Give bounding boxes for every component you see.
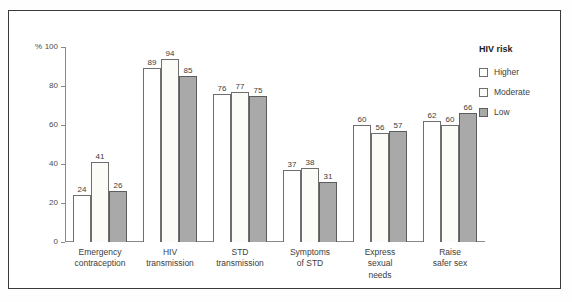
category-label: STD transmission (205, 247, 275, 281)
bar-slot: 66 (459, 47, 477, 242)
bar-value-label: 60 (358, 116, 367, 124)
bar-slot: 38 (301, 47, 319, 242)
bar[interactable]: 66 (459, 113, 477, 242)
bar-value-label: 60 (446, 116, 455, 124)
bar[interactable]: 31 (319, 182, 337, 242)
y-axis-tick-label: 0 (54, 238, 58, 246)
bar[interactable]: 38 (301, 168, 319, 242)
legend-title: HIV risk (479, 45, 559, 54)
figure-frame: % 020406080100 2441268994857677753738316… (8, 10, 561, 289)
bar[interactable]: 26 (109, 191, 127, 242)
bar-value-label: 62 (428, 112, 437, 120)
bar-slot: 76 (213, 47, 231, 242)
y-axis-tick-label: 60 (49, 121, 58, 129)
bar[interactable]: 57 (389, 131, 407, 242)
bar-slot: 26 (109, 47, 127, 242)
category-label: Symptoms of STD (275, 247, 345, 281)
bar-group: 767775 (205, 47, 275, 242)
bar[interactable]: 62 (423, 121, 441, 242)
category-label: Raise safer sex (415, 247, 485, 281)
bar-group: 605657 (345, 47, 415, 242)
legend-swatch (479, 88, 488, 97)
bar-slot: 75 (249, 47, 267, 242)
bar-group: 373831 (275, 47, 345, 242)
y-axis-tick-label: 40 (49, 160, 58, 168)
bar[interactable]: 60 (353, 125, 371, 242)
bar-value-label: 94 (166, 50, 175, 58)
bar[interactable]: 77 (231, 92, 249, 242)
y-axis-tick-label: 80 (49, 82, 58, 90)
bar[interactable]: 56 (371, 133, 389, 242)
bar-slot: 56 (371, 47, 389, 242)
bar-slot: 94 (161, 47, 179, 242)
bar[interactable]: 60 (441, 125, 459, 242)
bar-value-label: 57 (394, 122, 403, 130)
legend-swatch (479, 68, 488, 77)
bar-value-label: 38 (306, 159, 315, 167)
legend-label: Higher (494, 68, 519, 77)
bar[interactable]: 37 (283, 170, 301, 242)
bar-groups: 244126899485767775373831605657626066 (65, 47, 485, 242)
bar-group: 899485 (135, 47, 205, 242)
bar[interactable]: 85 (179, 76, 197, 242)
bar-group: 244126 (65, 47, 135, 242)
bar-slot: 77 (231, 47, 249, 242)
bar-slot: 41 (91, 47, 109, 242)
bar-slot: 89 (143, 47, 161, 242)
legend-entry[interactable]: Higher (479, 68, 559, 77)
bar[interactable]: 76 (213, 94, 231, 242)
category-label: HIV transmission (135, 247, 205, 281)
bar-slot: 57 (389, 47, 407, 242)
bar[interactable]: 75 (249, 96, 267, 242)
bar-slot: 60 (353, 47, 371, 242)
bar-value-label: 66 (464, 104, 473, 112)
bar-value-label: 77 (236, 83, 245, 91)
bar-value-label: 56 (376, 124, 385, 132)
bar-slot: 24 (73, 47, 91, 242)
legend-entry[interactable]: Moderate (479, 88, 559, 97)
legend-entry[interactable]: Low (479, 108, 559, 117)
bar-value-label: 85 (184, 67, 193, 75)
bar-value-label: 24 (78, 186, 87, 194)
bar-group: 626066 (415, 47, 485, 242)
bar-slot: 37 (283, 47, 301, 242)
y-axis-unit-label: % (35, 43, 42, 51)
bar[interactable]: 89 (143, 68, 161, 242)
bar-value-label: 31 (324, 173, 333, 181)
category-labels: Emergency contraceptionHIV transmissionS… (65, 247, 485, 281)
bar-slot: 31 (319, 47, 337, 242)
y-axis-tick-label: 20 (49, 199, 58, 207)
bar-value-label: 26 (114, 182, 123, 190)
bar[interactable]: 41 (91, 162, 109, 242)
category-label: Emergency contraception (65, 247, 135, 281)
bar-value-label: 41 (96, 153, 105, 161)
category-label: Express sexual needs (345, 247, 415, 281)
bar-slot: 85 (179, 47, 197, 242)
plot-area: % 020406080100 2441268994857677753738316… (65, 47, 485, 242)
figure: % 020406080100 2441268994857677753738316… (0, 0, 572, 302)
legend-label: Moderate (494, 88, 530, 97)
bar-value-label: 37 (288, 161, 297, 169)
y-axis-tick-label: 100 (45, 43, 58, 51)
bar-slot: 62 (423, 47, 441, 242)
bar[interactable]: 24 (73, 195, 91, 242)
y-axis-tick-mark (61, 242, 65, 243)
bar-slot: 60 (441, 47, 459, 242)
legend-swatch (479, 108, 488, 117)
legend-entries: HigherModerateLow (479, 68, 559, 117)
legend-label: Low (494, 108, 510, 117)
bar-value-label: 75 (254, 87, 263, 95)
legend: HIV risk HigherModerateLow (479, 45, 559, 128)
bar-value-label: 76 (218, 85, 227, 93)
bar-value-label: 89 (148, 59, 157, 67)
bar[interactable]: 94 (161, 59, 179, 242)
